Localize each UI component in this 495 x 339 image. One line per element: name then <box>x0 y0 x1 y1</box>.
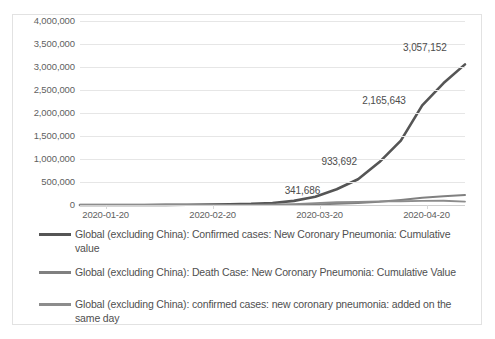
x-axis-tick-label: 2020-04-20 <box>403 209 450 220</box>
legend-item-confirmed-cumulative: Global (excluding China): Confirmed case… <box>13 227 481 255</box>
chart-legend: Global (excluding China): Confirmed case… <box>13 227 481 335</box>
chart-container: 4,000,0003,500,0003,000,0002,500,0002,00… <box>12 14 482 325</box>
x-axis-tick-label: 2020-02-20 <box>189 209 236 220</box>
y-axis-tick-label: 1,500,000 <box>34 131 75 141</box>
gridline <box>80 136 465 137</box>
x-axis-tick-label: 2020-01-20 <box>82 209 129 220</box>
gridline <box>80 182 465 183</box>
y-axis-tick-label: 2,000,000 <box>34 108 75 118</box>
legend-item-confirmed-daily: Global (excluding China): confirmed case… <box>13 297 481 325</box>
x-axis: 2020-01-202020-02-202020-03-202020-04-20 <box>80 209 465 223</box>
y-axis-tick-label: 3,000,000 <box>34 62 75 72</box>
y-axis-tick-label: 2,500,000 <box>34 85 75 95</box>
legend-item-label: Global (excluding China): Death Case: Ne… <box>75 265 457 279</box>
series-line <box>80 64 465 205</box>
x-axis-tick-label: 2020-03-20 <box>296 209 343 220</box>
legend-item-label: Global (excluding China): Confirmed case… <box>75 227 457 255</box>
legend-item-label: Global (excluding China): confirmed case… <box>75 297 457 325</box>
data-point-label: 2,165,643 <box>362 95 406 106</box>
legend-line-icon <box>39 233 71 237</box>
legend-item-death-cumulative: Global (excluding China): Death Case: Ne… <box>13 265 481 287</box>
y-axis-tick-label: 500,000 <box>41 177 75 187</box>
gridline <box>80 205 465 206</box>
data-point-label: 3,057,152 <box>403 42 447 53</box>
gridline <box>80 21 465 22</box>
data-point-label: 341,686 <box>285 185 320 196</box>
y-axis: 4,000,0003,500,0003,000,0002,500,0002,00… <box>13 15 79 205</box>
data-point-label: 933,692 <box>321 156 356 167</box>
gridline <box>80 159 465 160</box>
legend-line-icon <box>39 303 71 306</box>
y-axis-tick-label: 4,000,000 <box>34 16 75 26</box>
gridline <box>80 90 465 91</box>
legend-line-icon <box>39 271 71 274</box>
gridline <box>80 67 465 68</box>
y-axis-tick-label: 0 <box>70 200 75 210</box>
gridline <box>80 113 465 114</box>
y-axis-tick-label: 3,500,000 <box>34 39 75 49</box>
plot-wrapper: 4,000,0003,500,0003,000,0002,500,0002,00… <box>13 15 481 221</box>
y-axis-tick-label: 1,000,000 <box>34 154 75 164</box>
